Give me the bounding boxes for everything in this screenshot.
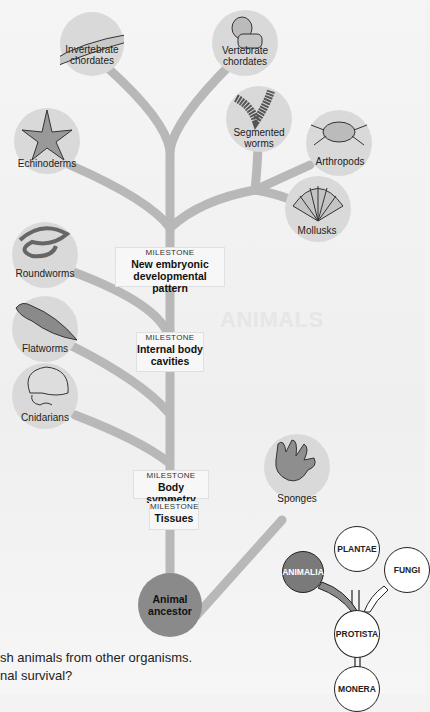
kingdom-protista: PROTISTA [334,610,380,658]
kingdom-plantae: PLANTAE [334,526,380,572]
kingdom-animalia: ANIMALIA [282,551,324,593]
kingdom-monera: MONERA [334,666,380,712]
kingdom-fungi: FUNGI [384,547,430,593]
